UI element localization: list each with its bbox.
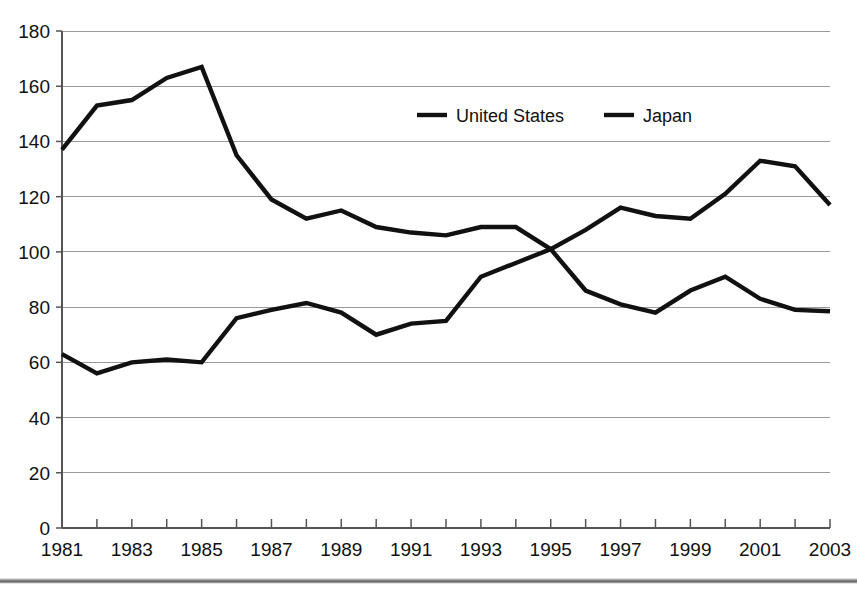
x-axis-tick-labels: 1981198319851987198919911993199519971999… — [41, 539, 851, 560]
x-tick-label-1981: 1981 — [41, 539, 83, 560]
legend-label-japan: Japan — [643, 106, 692, 126]
x-tick-label-1987: 1987 — [250, 539, 292, 560]
y-tick-label-180: 180 — [18, 21, 50, 42]
y-tick-label-140: 140 — [18, 131, 50, 152]
x-tick-label-1985: 1985 — [180, 539, 222, 560]
y-tick-label-0: 0 — [39, 518, 50, 539]
x-tickmarks — [62, 519, 830, 528]
y-tick-label-100: 100 — [18, 242, 50, 263]
y-tick-label-80: 80 — [29, 297, 50, 318]
y-tick-label-20: 20 — [29, 463, 50, 484]
bottom-rule-divider — [0, 578, 857, 584]
line-chart: 020406080100120140160180 198119831985198… — [0, 0, 857, 599]
y-tick-label-120: 120 — [18, 187, 50, 208]
x-tick-label-1997: 1997 — [599, 539, 641, 560]
x-tick-label-1983: 1983 — [111, 539, 153, 560]
y-tick-label-40: 40 — [29, 408, 50, 429]
y-axis-tick-labels: 020406080100120140160180 — [18, 21, 50, 539]
chart-figure: 020406080100120140160180 198119831985198… — [0, 0, 857, 599]
x-tick-label-1995: 1995 — [530, 539, 572, 560]
chart-legend: United States Japan — [417, 106, 692, 126]
x-tick-label-1999: 1999 — [669, 539, 711, 560]
x-tick-label-1993: 1993 — [460, 539, 502, 560]
x-tick-label-1991: 1991 — [390, 539, 432, 560]
gridlines — [62, 31, 830, 473]
y-tick-label-60: 60 — [29, 352, 50, 373]
series-line-united-states — [62, 67, 830, 249]
x-tick-label-2001: 2001 — [739, 539, 781, 560]
y-tick-label-160: 160 — [18, 76, 50, 97]
series-line-japan — [62, 249, 830, 373]
x-tick-label-2003: 2003 — [809, 539, 851, 560]
legend-label-united-states: United States — [456, 106, 564, 126]
x-tick-label-1989: 1989 — [320, 539, 362, 560]
